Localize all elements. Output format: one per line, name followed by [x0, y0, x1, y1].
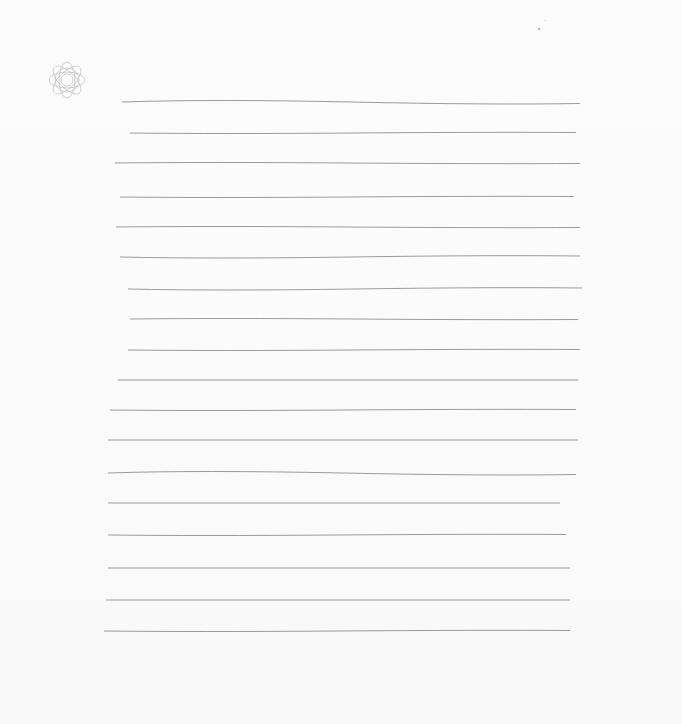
ruled-line [115, 163, 580, 164]
ruled-line [130, 319, 578, 320]
lined-paper-sheet [0, 0, 682, 724]
ruled-line [116, 227, 580, 228]
ruled-line [128, 349, 580, 350]
ruled-line [108, 534, 566, 535]
ruled-lines [0, 0, 682, 724]
ruled-line [130, 132, 576, 133]
ruled-line [104, 630, 570, 631]
ruled-line [120, 256, 580, 258]
ruled-line [120, 196, 574, 197]
ruled-line [128, 288, 582, 290]
ruled-line [122, 101, 580, 105]
ruled-line [108, 472, 576, 476]
ruled-line [110, 409, 576, 410]
